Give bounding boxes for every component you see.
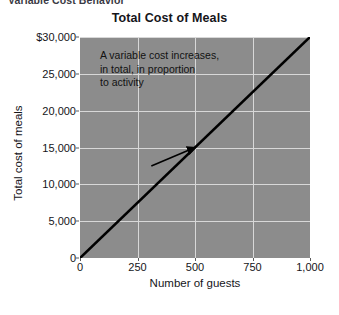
y-tick-label: 0	[2, 252, 76, 264]
x-tick-mark	[138, 258, 139, 261]
x-axis-title: Number of guests	[80, 277, 310, 289]
x-tick-mark	[253, 258, 254, 261]
x-tick-label: 250	[128, 261, 146, 273]
x-tick-mark	[310, 258, 311, 261]
y-tick-mark	[76, 147, 79, 148]
x-tick-label: 1,000	[296, 261, 324, 273]
x-tick-mark	[80, 258, 81, 261]
y-tick-label: 5,000	[2, 215, 76, 227]
y-tick-mark	[76, 37, 79, 38]
x-tick-label: 750	[243, 261, 261, 273]
y-axis-ticks: 05,00010,00015,00020,00025,000$30,000	[0, 37, 76, 258]
annotation-text: A variable cost increases, in total, in …	[100, 49, 219, 90]
y-tick-mark	[76, 110, 79, 111]
y-tick-mark	[76, 184, 79, 185]
chart-title: Total Cost of Meals	[0, 11, 339, 25]
y-tick-mark	[76, 258, 79, 259]
y-tick-label: 25,000	[2, 68, 76, 80]
y-tick-mark	[76, 73, 79, 74]
annotation-arrow	[151, 148, 195, 166]
x-tick-mark	[195, 258, 196, 261]
y-tick-label: 10,000	[2, 178, 76, 190]
y-tick-label: $30,000	[2, 31, 76, 43]
y-tick-label: 15,000	[2, 142, 76, 154]
clipped-caption: Variable Cost Behavior	[8, 0, 125, 6]
x-tick-label: 500	[186, 261, 204, 273]
x-axis-ticks: 02505007501,000	[80, 258, 310, 276]
plot-area: A variable cost increases, in total, in …	[80, 37, 310, 258]
y-tick-mark	[76, 221, 79, 222]
y-tick-label: 20,000	[2, 105, 76, 117]
x-tick-label: 0	[77, 261, 83, 273]
